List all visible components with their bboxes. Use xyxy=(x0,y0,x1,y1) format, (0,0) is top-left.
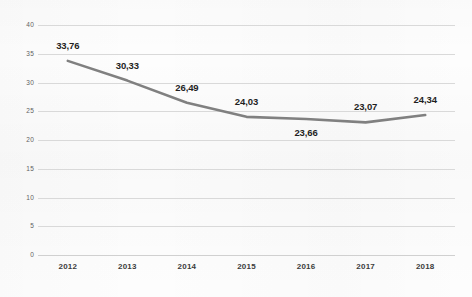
line-chart: 0510152025303540 33,7630,3326,4924,0323,… xyxy=(0,0,472,297)
y-tick-label: 30 xyxy=(4,79,34,86)
y-tick-label: 0 xyxy=(4,251,34,258)
data-label-2017: 23,07 xyxy=(354,101,377,112)
data-label-2013: 30,33 xyxy=(116,60,139,71)
x-tick-label-2017: 2017 xyxy=(356,262,375,271)
x-tick-label-2013: 2013 xyxy=(118,262,137,271)
series-line xyxy=(38,25,455,255)
y-tick-label: 25 xyxy=(4,107,34,114)
y-tick-label: 15 xyxy=(4,165,34,172)
gridline-0 xyxy=(38,255,455,256)
y-axis: 0510152025303540 xyxy=(0,25,34,255)
y-tick-label: 35 xyxy=(4,50,34,57)
x-tick-label-2016: 2016 xyxy=(297,262,316,271)
data-label-2012: 33,76 xyxy=(56,40,79,51)
x-axis: 2012201320142015201620172018 xyxy=(38,262,455,278)
data-label-2016: 23,66 xyxy=(294,127,317,138)
x-tick-label-2018: 2018 xyxy=(416,262,435,271)
x-tick-label-2015: 2015 xyxy=(237,262,256,271)
y-tick-label: 20 xyxy=(4,136,34,143)
data-label-2018: 24,34 xyxy=(414,94,437,105)
y-tick-label: 5 xyxy=(4,222,34,229)
data-label-2014: 26,49 xyxy=(175,82,198,93)
data-label-2015: 24,03 xyxy=(235,96,258,107)
y-tick-label: 40 xyxy=(4,21,34,28)
y-tick-label: 10 xyxy=(4,194,34,201)
x-tick-label-2014: 2014 xyxy=(178,262,197,271)
x-tick-label-2012: 2012 xyxy=(58,262,77,271)
